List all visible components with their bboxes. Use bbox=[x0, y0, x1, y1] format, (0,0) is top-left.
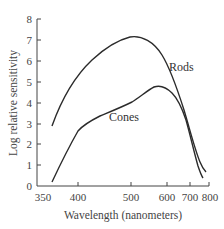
x-axis-title: Wavelength (nanometers) bbox=[64, 209, 182, 222]
y-tick-label: 0 bbox=[27, 180, 33, 192]
chart: 0 1 2 3 4 5 6 7 8 350 400 500 600 700 80… bbox=[0, 0, 224, 229]
rods-curve bbox=[52, 37, 206, 172]
y-tick-label: 1 bbox=[27, 159, 33, 171]
x-tick-label: 800 bbox=[202, 191, 219, 203]
y-tick-label: 8 bbox=[27, 13, 33, 25]
x-ticks bbox=[78, 182, 209, 186]
y-tick-label: 5 bbox=[27, 76, 33, 88]
y-axis-title: Log relative sensitivity bbox=[7, 50, 20, 156]
y-tick-label: 3 bbox=[27, 118, 33, 130]
x-tick-label: 600 bbox=[159, 191, 176, 203]
rods-label: Rods bbox=[169, 60, 194, 74]
x-tick-label: 700 bbox=[182, 191, 199, 203]
x-tick-label: 500 bbox=[123, 191, 140, 203]
x-tick-label: 400 bbox=[70, 191, 87, 203]
y-tick-label: 7 bbox=[27, 34, 33, 46]
y-tick-label: 6 bbox=[27, 55, 33, 67]
x-tick-labels: 350 400 500 600 700 800 bbox=[35, 191, 219, 203]
y-tick-labels: 0 1 2 3 4 5 6 7 8 bbox=[27, 13, 33, 192]
cones-label: Cones bbox=[109, 110, 139, 124]
y-tick-label: 4 bbox=[27, 97, 33, 109]
y-tick-label: 2 bbox=[27, 138, 33, 150]
x-tick-label: 350 bbox=[35, 191, 52, 203]
y-ticks bbox=[37, 19, 41, 165]
